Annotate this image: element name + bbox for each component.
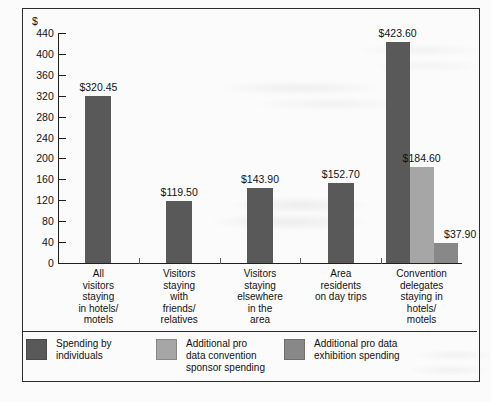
chart-page: $ 04080120160200240280320360400440 $320.… — [0, 0, 491, 402]
y-axis-tick-label: 400 — [36, 48, 54, 60]
legend-label: Additional pro data convention sponsor s… — [186, 338, 265, 373]
bar: $320.45 — [85, 96, 111, 264]
category-label: Visitors staying with friends/ relatives — [133, 268, 226, 326]
bar-value-label: $143.90 — [241, 173, 279, 185]
y-axis-tick-label: 440 — [36, 27, 54, 39]
bar-value-label: $320.45 — [79, 81, 117, 93]
legend-item: Additional pro data convention sponsor s… — [156, 338, 265, 373]
y-axis-tick: 40 — [58, 242, 66, 243]
bar-value-label: $119.50 — [161, 186, 198, 198]
y-axis-tick-label: 280 — [36, 111, 54, 123]
y-axis-tick: 400 — [58, 54, 66, 55]
y-axis-tick-label: 120 — [36, 194, 54, 206]
y-axis-tick-label: 360 — [36, 69, 54, 81]
y-axis-tick-label: 160 — [36, 173, 54, 185]
x-axis-group-tick — [139, 258, 140, 264]
y-axis-tick-label: 240 — [36, 132, 54, 144]
y-axis-tick: 440 — [58, 33, 66, 34]
legend-label: Spending by individuals — [56, 338, 112, 362]
y-axis-tick-label: 200 — [36, 152, 54, 164]
y-axis-tick-label: 320 — [36, 90, 54, 102]
chart-legend: Spending by individualsAdditional pro da… — [26, 338, 466, 378]
y-axis-tick: 240 — [58, 138, 66, 139]
y-axis-tick: 360 — [58, 75, 66, 76]
category-label: Convention delegates staying in hotels/ … — [375, 268, 468, 326]
y-axis-currency-label: $ — [32, 15, 38, 27]
y-axis-tick: 80 — [58, 221, 66, 222]
bar-value-label: $423.60 — [379, 27, 417, 39]
x-axis-group-tick — [300, 258, 301, 264]
y-axis-tick-label: 40 — [42, 236, 54, 248]
x-axis-group-tick — [381, 258, 382, 264]
bar: $119.50 — [166, 201, 192, 263]
plot-area: 04080120160200240280320360400440 $320.45… — [58, 33, 462, 263]
y-axis-tick: 200 — [58, 158, 66, 159]
x-axis-line — [58, 263, 462, 264]
bar-value-label: $152.70 — [322, 168, 360, 180]
legend-item: Additional pro data exhibition spending — [284, 338, 400, 362]
y-axis-tick: 280 — [58, 117, 66, 118]
bar: $152.70 — [328, 183, 354, 263]
y-axis-tick: 0 — [58, 263, 66, 264]
legend-label: Additional pro data exhibition spending — [314, 338, 400, 362]
y-axis-tick: 120 — [58, 200, 66, 201]
y-axis-tick-label: 80 — [42, 215, 54, 227]
y-axis-tick: 320 — [58, 96, 66, 97]
bar: $37.90 — [434, 243, 458, 263]
category-label: Area residents on day trips — [294, 268, 387, 303]
bar-value-label: $37.90 — [444, 228, 476, 240]
legend-item: Spending by individuals — [26, 338, 112, 362]
x-axis-group-tick — [220, 258, 221, 264]
bar: $143.90 — [247, 188, 273, 263]
legend-color-swatch — [156, 339, 177, 360]
category-label: All visitors staying in hotels/ motels — [52, 268, 145, 326]
legend-color-swatch — [284, 339, 305, 360]
legend-color-swatch — [26, 339, 47, 360]
bar-value-label: $184.60 — [403, 152, 441, 164]
bar: $184.60 — [410, 167, 434, 263]
y-axis-tick: 160 — [58, 179, 66, 180]
legend-divider-rule — [23, 331, 477, 332]
category-label: Visitors staying elsewhere in the area — [214, 268, 307, 326]
